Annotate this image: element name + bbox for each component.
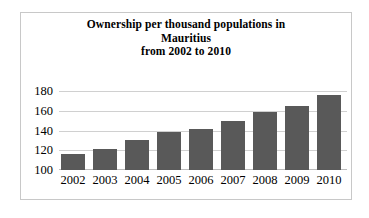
bar-2007 <box>221 121 245 170</box>
chart-title: Ownership per thousand populations in Ma… <box>21 18 351 59</box>
x-axis-tick-2003: 2003 <box>88 173 122 187</box>
bar-2008 <box>253 112 277 170</box>
y-axis-tick-labels: 180 160 140 120 100 <box>21 91 57 170</box>
x-axis-tick-labels: 2002 2003 2004 2005 2006 2007 2008 2009 … <box>59 173 347 193</box>
bar-2003 <box>93 149 117 170</box>
y-axis-tick-100: 100 <box>34 164 53 177</box>
x-axis-tick-2006: 2006 <box>184 173 218 187</box>
bar-2004 <box>125 140 149 170</box>
x-axis-tick-2005: 2005 <box>152 173 186 187</box>
x-axis-tick-2007: 2007 <box>216 173 250 187</box>
bars-layer <box>59 91 347 170</box>
x-axis-tick-2008: 2008 <box>248 173 282 187</box>
chart-title-line-3: from 2002 to 2010 <box>21 45 351 59</box>
y-axis-tick-180: 180 <box>34 85 53 98</box>
bar-2005 <box>157 132 181 170</box>
bar-2009 <box>285 106 309 170</box>
chart-frame: Ownership per thousand populations in Ma… <box>20 12 352 200</box>
x-axis-tick-2002: 2002 <box>56 173 90 187</box>
x-axis-tick-2004: 2004 <box>120 173 154 187</box>
x-axis-tick-2010: 2010 <box>312 173 346 187</box>
chart-title-line-1: Ownership per thousand populations in <box>21 18 351 32</box>
chart-title-line-2: Mauritius <box>21 32 351 46</box>
bar-2002 <box>61 154 85 170</box>
y-axis-tick-120: 120 <box>34 144 53 157</box>
plot-area <box>59 91 347 170</box>
y-axis-tick-160: 160 <box>34 105 53 118</box>
x-axis-tick-2009: 2009 <box>280 173 314 187</box>
bar-2010 <box>317 95 341 170</box>
y-axis-tick-140: 140 <box>34 124 53 137</box>
bar-2006 <box>189 129 213 170</box>
